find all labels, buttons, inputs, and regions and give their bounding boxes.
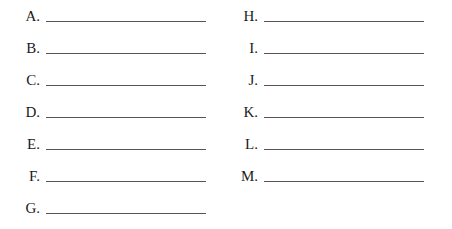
answer-line-l[interactable] — [264, 149, 424, 150]
answer-line-h[interactable] — [264, 21, 424, 22]
item-label-m: M. — [241, 169, 258, 184]
item-label-b: B. — [26, 41, 40, 56]
answer-line-k[interactable] — [264, 117, 424, 118]
item-label-l: L. — [245, 137, 258, 152]
item-label-k: K. — [243, 105, 258, 120]
item-label-c: C. — [26, 73, 40, 88]
item-label-h: H. — [243, 9, 258, 24]
answer-line-j[interactable] — [264, 85, 424, 86]
answer-line-a[interactable] — [46, 21, 206, 22]
answer-line-c[interactable] — [46, 85, 206, 86]
item-label-a: A. — [25, 9, 40, 24]
answer-line-e[interactable] — [46, 149, 206, 150]
answer-line-m[interactable] — [264, 181, 424, 182]
answer-line-i[interactable] — [264, 53, 424, 54]
answer-line-b[interactable] — [46, 53, 206, 54]
answer-line-f[interactable] — [46, 181, 206, 182]
answer-line-g[interactable] — [46, 213, 206, 214]
item-label-j: J. — [248, 73, 258, 88]
item-label-e: E. — [27, 137, 40, 152]
answer-line-d[interactable] — [46, 117, 206, 118]
item-label-f: F. — [29, 169, 40, 184]
item-label-d: D. — [25, 105, 40, 120]
item-label-i: I. — [249, 41, 258, 56]
item-label-g: G. — [25, 201, 40, 216]
